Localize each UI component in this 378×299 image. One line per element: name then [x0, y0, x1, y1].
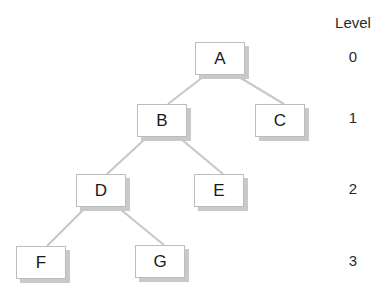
- level-label-3: 3: [330, 252, 376, 269]
- tree-node-a: A: [195, 42, 245, 75]
- edge-d-g: [120, 209, 164, 245]
- edge-d-f: [47, 209, 84, 246]
- edge-b-e: [181, 139, 223, 174]
- edge-a-b: [168, 77, 203, 104]
- node-label: D: [95, 181, 107, 201]
- tree-node-d: D: [76, 174, 126, 207]
- level-label-0: 0: [330, 48, 376, 65]
- level-label-2: 2: [330, 180, 376, 197]
- node-label: C: [274, 111, 286, 131]
- edge-a-c: [239, 77, 284, 104]
- tree-node-b: B: [137, 104, 187, 137]
- node-label: E: [213, 181, 224, 201]
- tree-node-g: G: [135, 245, 185, 278]
- edge-b-d: [107, 139, 145, 174]
- node-label: F: [36, 253, 46, 273]
- node-label: G: [153, 252, 166, 272]
- level-label-1: 1: [330, 109, 376, 126]
- level-header: Level: [330, 14, 376, 31]
- node-label: A: [214, 49, 225, 69]
- tree-node-c: C: [255, 104, 305, 137]
- tree-node-e: E: [194, 174, 244, 207]
- node-label: B: [156, 111, 167, 131]
- tree-node-f: F: [16, 246, 66, 279]
